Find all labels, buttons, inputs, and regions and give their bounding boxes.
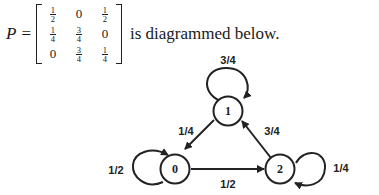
- edge-label-2-1: 3/4: [264, 125, 280, 137]
- markov-chain-diagram: 1 0 2 3/4 1/4 3/4 1/2 1/2 1/4: [0, 0, 379, 195]
- node-1-label: 1: [225, 104, 231, 118]
- edge-label-0-2: 1/2: [220, 178, 235, 190]
- node-2-label: 2: [277, 162, 283, 176]
- edge-label-0-0: 1/2: [108, 164, 123, 176]
- edge-label-1-0: 1/4: [178, 125, 194, 137]
- edge-2-2: [295, 153, 325, 185]
- edge-label-1-1: 3/4: [220, 54, 236, 66]
- node-0-label: 0: [172, 162, 178, 176]
- edge-label-2-2: 1/4: [333, 162, 349, 174]
